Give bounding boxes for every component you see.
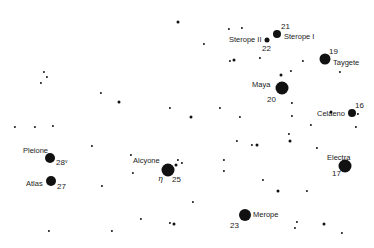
field-star	[290, 70, 292, 72]
field-star	[140, 218, 142, 220]
field-star	[34, 126, 36, 128]
field-star	[100, 92, 102, 94]
field-star	[302, 60, 304, 62]
number-celaeno: 16	[355, 102, 364, 110]
field-star	[289, 140, 292, 143]
label-sterope-2: Sterope II	[229, 36, 262, 44]
number-sterope-1: 21	[281, 23, 290, 31]
field-star	[111, 230, 113, 232]
field-star	[259, 57, 261, 59]
field-star	[294, 227, 296, 229]
field-star	[236, 140, 238, 142]
label-maya: Maya	[252, 81, 270, 89]
label-merope: Merope	[253, 211, 278, 219]
field-star	[239, 116, 241, 118]
field-star	[52, 125, 54, 127]
field-star	[339, 71, 341, 73]
field-star	[288, 133, 290, 135]
field-star	[233, 59, 236, 62]
field-star	[280, 74, 283, 77]
field-star	[177, 159, 179, 161]
field-star	[175, 164, 178, 167]
field-star	[355, 126, 357, 128]
field-star	[14, 126, 16, 128]
star-chart: Sterope II 22 21 Sterope I 19 Taygete Ma…	[0, 0, 374, 248]
field-star	[341, 232, 343, 234]
star-sterope-2	[265, 38, 270, 43]
star-merope	[239, 209, 251, 221]
label-alcyone: Alcyone	[133, 157, 160, 165]
field-star	[190, 116, 193, 119]
field-star	[291, 102, 293, 104]
field-star	[181, 162, 183, 164]
field-star	[251, 144, 253, 146]
label-taygete: Taygete	[333, 59, 359, 67]
field-star	[310, 124, 312, 126]
field-star	[241, 27, 243, 29]
field-star	[219, 107, 221, 109]
field-star	[306, 190, 308, 192]
field-star	[169, 222, 171, 224]
number-merope: 23	[230, 222, 239, 230]
variable-marker: v	[65, 158, 68, 164]
field-star	[173, 223, 176, 226]
star-sterope-1	[273, 30, 281, 38]
field-star	[277, 190, 280, 193]
field-star	[43, 71, 45, 73]
label-electra: Electra	[327, 154, 350, 162]
field-star	[169, 107, 171, 109]
field-star	[203, 43, 205, 45]
number-atlas: 27	[57, 183, 66, 191]
number-taygete: 19	[329, 48, 338, 56]
field-star	[323, 223, 326, 226]
field-star	[316, 147, 318, 149]
field-star	[91, 145, 93, 147]
field-star	[330, 111, 333, 114]
number-electra: 17	[332, 170, 341, 178]
field-star	[229, 60, 231, 62]
field-star	[223, 170, 225, 172]
field-star	[192, 201, 194, 203]
field-star	[40, 82, 42, 84]
field-star	[46, 76, 48, 78]
number-alcyone: 25	[172, 176, 181, 184]
field-star	[101, 185, 103, 187]
number-sterope-2: 22	[262, 45, 271, 53]
field-star	[291, 115, 293, 117]
label-pleione: Pleione	[23, 147, 48, 155]
star-atlas	[46, 176, 56, 186]
pleione-number-text: 28	[56, 158, 65, 167]
field-star	[132, 172, 134, 174]
star-celaeno	[348, 109, 356, 117]
greek-eta-alcyone: η	[158, 175, 163, 183]
field-star	[262, 179, 264, 181]
field-star	[223, 159, 225, 161]
field-star	[228, 28, 230, 30]
field-star	[118, 101, 121, 104]
star-maya	[276, 82, 289, 95]
field-star	[357, 113, 359, 115]
number-pleione: 28v	[56, 159, 67, 167]
field-star	[296, 221, 298, 223]
label-sterope-1: Sterope I	[284, 33, 314, 41]
field-star	[256, 144, 259, 147]
field-star	[48, 230, 50, 232]
field-star	[130, 154, 132, 156]
number-maya: 20	[267, 96, 276, 104]
label-atlas: Atlas	[26, 180, 43, 188]
field-star	[177, 21, 180, 24]
